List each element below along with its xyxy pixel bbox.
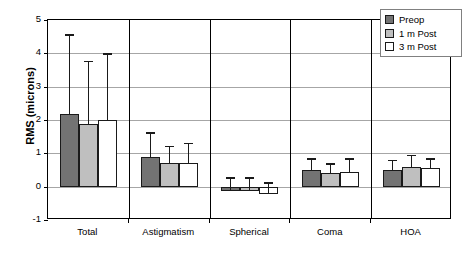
bar [383, 170, 402, 187]
bar [340, 172, 359, 187]
legend: Preop 1 m Post 3 m Post [380, 9, 462, 57]
legend-item-3m-post: 3 m Post [385, 40, 457, 54]
legend-label-3m-post: 3 m Post [399, 41, 437, 52]
error-bar-line [188, 143, 189, 163]
bar-chart: RMS (microns) 543210-1 TotalAstigmatismS… [0, 0, 470, 257]
x-tick-mark [128, 219, 129, 223]
bar-group [210, 20, 291, 218]
error-bar-cap [226, 177, 235, 178]
y-tick-label: 0 [19, 181, 41, 191]
x-tick-label: Spherical [209, 226, 290, 237]
legend-swatch-1m-post [385, 29, 394, 38]
legend-item-1m-post: 1 m Post [385, 27, 457, 41]
bar [98, 120, 117, 187]
error-bar-cap [245, 177, 254, 178]
error-bar-cap [65, 34, 74, 35]
x-tick-mark [370, 219, 371, 223]
legend-label-preop: Preop [399, 14, 424, 25]
error-bar-cap [84, 61, 93, 62]
error-bar-line [107, 53, 108, 120]
bar-group [290, 20, 371, 218]
category-separator [371, 20, 372, 218]
legend-swatch-3m-post [385, 42, 394, 51]
y-tick-mark [44, 220, 48, 221]
error-bar-line [88, 61, 89, 124]
y-tick-label: 2 [19, 114, 41, 124]
y-tick-label: 3 [19, 81, 41, 91]
error-bar-line [230, 177, 231, 190]
error-bar-line [349, 158, 350, 171]
error-bar-cap [184, 143, 193, 144]
error-bar-cap [264, 182, 273, 183]
error-bar-cap [407, 155, 416, 156]
x-tick-mark [289, 219, 290, 223]
error-bar-line [311, 158, 312, 170]
bar [402, 167, 421, 187]
bar [302, 170, 321, 187]
y-tick-label: 4 [19, 47, 41, 57]
category-separator [210, 20, 211, 218]
error-bar-line [268, 182, 269, 194]
error-bar-cap [307, 158, 316, 159]
x-tick-mark [209, 219, 210, 223]
error-bar-cap [388, 160, 397, 161]
legend-swatch-preop [385, 15, 394, 24]
error-bar-cap [345, 158, 354, 159]
legend-label-1m-post: 1 m Post [399, 28, 437, 39]
bar [79, 124, 98, 187]
bar [60, 114, 79, 186]
error-bar-line [150, 132, 151, 157]
bar [321, 173, 340, 187]
x-tick-label: Total [47, 226, 128, 237]
error-bar-cap [146, 132, 155, 133]
error-bar-line [249, 177, 250, 190]
y-tick-label: 5 [19, 14, 41, 24]
x-tick-label: HOA [370, 226, 451, 237]
x-tick-label: Astigmatism [128, 226, 209, 237]
category-separator [290, 20, 291, 218]
bar [421, 168, 440, 186]
error-bar-line [69, 34, 70, 114]
error-bar-line [411, 155, 412, 167]
error-bar-line [169, 146, 170, 163]
y-tick-label: 1 [19, 147, 41, 157]
y-tick-label: -1 [19, 214, 41, 224]
x-tick-label: Coma [289, 226, 370, 237]
error-bar-line [330, 163, 331, 172]
bar-group [48, 20, 129, 218]
bar-group [129, 20, 210, 218]
category-separator [129, 20, 130, 218]
legend-item-preop: Preop [385, 13, 457, 27]
error-bar-line [430, 158, 431, 168]
bar [141, 157, 160, 186]
error-bar-cap [103, 53, 112, 54]
error-bar-cap [165, 146, 174, 147]
error-bar-line [392, 160, 393, 170]
error-bar-cap [326, 163, 335, 164]
error-bar-cap [426, 158, 435, 159]
bar [179, 163, 198, 187]
bar [160, 163, 179, 187]
